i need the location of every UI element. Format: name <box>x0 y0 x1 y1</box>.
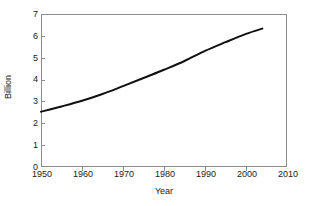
series-line-world-population <box>41 29 262 112</box>
x-tick-label-1950: 1950 <box>22 170 62 179</box>
x-axis-title: Year <box>41 186 287 196</box>
y-tick-label-7: 7 <box>8 10 38 19</box>
y-tick-label-1: 1 <box>8 141 38 150</box>
series-layer <box>41 14 287 167</box>
x-tick-label-1970: 1970 <box>104 170 144 179</box>
y-tick-label-2: 2 <box>8 119 38 128</box>
line-chart: 7 6 5 4 3 2 1 0 1950 1960 1970 1980 1990… <box>0 0 312 206</box>
y-tick-label-6: 6 <box>8 32 38 41</box>
y-axis-title: Billion <box>3 57 13 117</box>
x-tick-label-1960: 1960 <box>63 170 103 179</box>
x-tick-label-1990: 1990 <box>186 170 226 179</box>
x-tick-label-2010: 2010 <box>268 170 308 179</box>
x-tick-label-2000: 2000 <box>227 170 267 179</box>
x-tick-label-1980: 1980 <box>145 170 185 179</box>
